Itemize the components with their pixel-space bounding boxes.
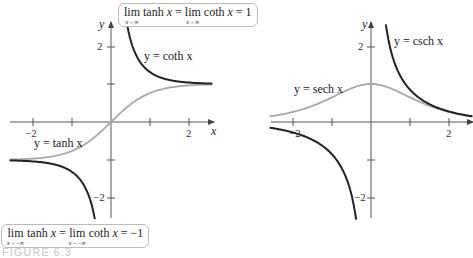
- left-ytick-neg2: −2: [93, 192, 105, 203]
- right-ytick-neg2: −2: [354, 192, 366, 203]
- figure-caption: FIGURE 6.3: [2, 246, 72, 258]
- left-y-axis-label: y: [99, 18, 104, 30]
- limit-box-negative-infinity: limx→−∞ tanh x = limx→−∞ coth x = −1: [1, 224, 149, 248]
- right-ytick-2: 2: [358, 41, 364, 52]
- left-xtick-2: 2: [186, 128, 192, 139]
- csch-curve-label: y = csch x: [394, 35, 443, 47]
- coth-curve: [10, 160, 95, 219]
- sech-curve-label: y = sech x: [294, 83, 343, 95]
- csch-curve: [270, 128, 357, 220]
- tanh-curve-label: y = tanh x: [34, 137, 82, 149]
- left-ytick-2: 2: [97, 41, 103, 52]
- limit-box-positive-infinity: limx→∞ tanh x = limx→∞ coth x = 1: [118, 3, 258, 27]
- right-y-axis-label: y: [362, 18, 367, 30]
- right-xtick-neg2: −2: [289, 128, 301, 139]
- right-xtick-2: 2: [446, 128, 452, 139]
- right-plot-axes: [271, 22, 473, 218]
- coth-curve-label: y = coth x: [144, 50, 192, 62]
- left-x-axis-label: x: [211, 125, 216, 137]
